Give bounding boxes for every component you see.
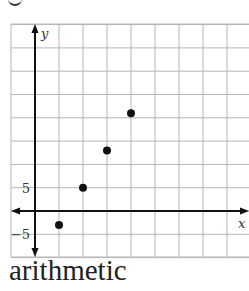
y-arrow-up-icon	[32, 24, 39, 33]
data-point	[127, 109, 135, 117]
x-axis-label: x	[238, 216, 246, 231]
y-tick-label: 5	[22, 181, 30, 196]
x-arrow-right-icon	[240, 208, 249, 215]
data-point	[55, 221, 63, 229]
axes	[11, 24, 249, 257]
grid-lines	[11, 24, 249, 258]
y-tick-label: −5	[11, 227, 30, 242]
data-point	[79, 184, 87, 192]
caption-label: arithmetic	[9, 256, 127, 285]
y-axis-label: y	[40, 26, 49, 41]
scatter-plot: x y 5−5	[0, 0, 249, 260]
data-point	[103, 146, 111, 154]
x-arrow-left-icon	[11, 208, 20, 215]
